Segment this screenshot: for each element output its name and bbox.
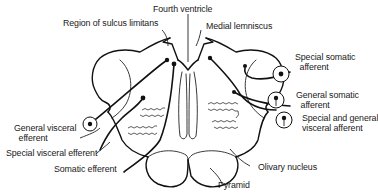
label-general-somatic-afferent: General somatic afferent	[296, 90, 359, 110]
label-general-visceral-efferent: General visceral efferent	[14, 123, 76, 143]
label-olivary-nucleus: Olivary nucleus	[258, 162, 317, 172]
label-medial-lemniscus: Medial lemniscus	[206, 21, 272, 31]
label-sulcus-limitans: Region of sulcus limitans	[63, 18, 158, 28]
label-line-2: efferent	[14, 133, 76, 143]
label-special-somatic-afferent: Special somatic afferent	[295, 52, 355, 72]
label-special-general-visceral-afferent: Special and general visceral afferent	[302, 113, 378, 133]
label-line-2: visceral afferent	[302, 123, 378, 133]
label-special-visceral-efferent: Special visceral efferent	[6, 148, 97, 158]
label-pyramid: Pyramid	[218, 180, 250, 190]
label-line-2: afferent	[296, 100, 359, 110]
olivary-nuclei	[128, 103, 239, 135]
label-fourth-ventricle: Fourth ventricle	[153, 4, 212, 14]
label-line-2: afferent	[295, 62, 355, 72]
label-somatic-efferent: Somatic efferent	[54, 164, 117, 174]
